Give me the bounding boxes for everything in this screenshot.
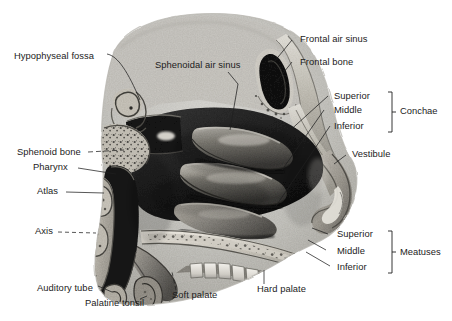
label-concha-inferior: Inferior — [334, 121, 364, 131]
label-soft-palate: Soft palate — [172, 290, 217, 300]
label-frontal-air-sinus: Frontal air sinus — [300, 34, 368, 44]
label-conchae-group: Conchae — [400, 105, 438, 116]
label-sphenoidal-air-sinus: Sphenoidal air sinus — [155, 60, 240, 70]
label-vestibule: Vestibule — [352, 149, 391, 159]
label-meatus-middle: Middle — [337, 246, 365, 256]
label-hypophyseal-fossa: Hypophyseal fossa — [14, 51, 94, 61]
label-frontal-bone: Frontal bone — [300, 57, 353, 67]
label-sphenoid-bone: Sphenoid bone — [17, 147, 81, 157]
label-palatine-tonsil: Palatine tonsil — [85, 298, 144, 308]
label-auditory-tube: Auditory tube — [37, 283, 93, 293]
label-atlas: Atlas — [37, 186, 58, 196]
label-concha-middle: Middle — [334, 105, 362, 115]
label-meatus-inferior: Inferior — [337, 262, 367, 272]
anatomy-figure: Hypophyseal fossa Sphenoidal air sinus F… — [0, 0, 452, 321]
label-concha-superior: Superior — [334, 91, 370, 101]
label-meatus-superior: Superior — [337, 229, 373, 239]
label-meatuses-group: Meatuses — [400, 246, 441, 257]
label-axis: Axis — [35, 226, 53, 236]
label-pharynx: Pharynx — [33, 162, 68, 172]
label-hard-palate: Hard palate — [257, 284, 306, 294]
label-overlay: Hypophyseal fossa Sphenoidal air sinus F… — [0, 0, 452, 321]
